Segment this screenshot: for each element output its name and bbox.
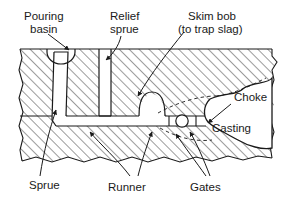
label-casting: Casting xyxy=(212,122,251,134)
label-sprue: Sprue xyxy=(29,179,60,191)
casting-mold-diagram: Pouring basin Relief sprue Skim bob (to … xyxy=(0,0,292,208)
label-choke: Choke xyxy=(234,91,267,103)
label-relief-sprue-line1: Relief xyxy=(110,10,140,22)
label-pouring-basin-line1: Pouring xyxy=(24,10,64,22)
label-pouring-basin-line2: basin xyxy=(30,23,58,35)
label-relief-sprue-line2: sprue xyxy=(110,23,139,35)
gate-circular xyxy=(176,115,188,127)
diagram-page: Pouring basin Relief sprue Skim bob (to … xyxy=(0,0,292,208)
label-skim-bob-line1: Skim bob xyxy=(188,10,236,22)
label-runner: Runner xyxy=(108,181,146,193)
label-skim-bob-line2: (to trap slag) xyxy=(178,23,243,35)
label-gates: Gates xyxy=(190,181,221,193)
